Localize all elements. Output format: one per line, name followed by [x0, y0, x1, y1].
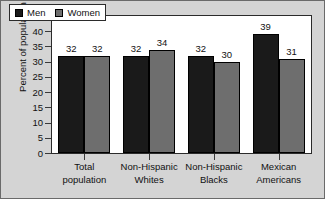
bar-value-label: 32	[123, 43, 149, 55]
x-category-label-line: Non-Hispanic	[182, 161, 247, 174]
x-category-label-line: Americans	[246, 174, 311, 187]
bar-men	[123, 56, 149, 153]
y-tick-label: 40	[23, 26, 43, 37]
y-tick-label: 10	[23, 117, 43, 128]
y-tick-label: 5	[23, 132, 43, 143]
x-category-label-line: Mexican	[246, 161, 311, 174]
x-tick-mark	[214, 154, 215, 160]
bar-women	[279, 59, 305, 153]
legend-label-women: Women	[67, 8, 100, 18]
x-category-label: MexicanAmericans	[246, 161, 311, 186]
x-tick-mark	[149, 154, 150, 160]
bar-men	[188, 56, 214, 153]
x-category-label-line: population	[52, 174, 117, 187]
bar-value-label: 34	[149, 37, 175, 49]
bar-value-label: 32	[58, 43, 84, 55]
y-axis-tick-labels: 454035302520151050	[23, 1, 43, 199]
x-category-label: Non-HispanicBlacks	[182, 161, 247, 186]
y-tick-label: 20	[23, 87, 43, 98]
bar-men	[253, 34, 279, 153]
plot-area: 3232323432303931	[51, 15, 312, 154]
y-tick-label: 15	[23, 102, 43, 113]
x-category-label-line: Whites	[117, 174, 182, 187]
x-category-label: Totalpopulation	[52, 161, 117, 186]
y-tick-label: 0	[23, 148, 43, 159]
x-category-label-line: Blacks	[182, 174, 247, 187]
x-axis-category-labels: TotalpopulationNon-HispanicWhitesNon-His…	[51, 161, 312, 195]
bar-value-label: 39	[253, 21, 279, 33]
x-tick-mark	[84, 154, 85, 160]
legend-swatch-women-icon	[55, 9, 63, 17]
x-tick-mark	[279, 154, 280, 160]
x-axis-tick-marks	[51, 154, 312, 160]
legend-swatch-men-icon	[15, 9, 23, 17]
y-tick-label: 30	[23, 56, 43, 67]
legend-label-men: Men	[27, 8, 45, 18]
bar-value-label: 32	[84, 43, 110, 55]
bars-container: 3232323432303931	[52, 16, 311, 153]
legend-item-men: Men	[15, 8, 45, 18]
bar-value-label: 32	[188, 43, 214, 55]
x-category-label-line: Total	[52, 161, 117, 174]
chart-legend: Men Women	[9, 4, 106, 21]
y-tick-label: 35	[23, 41, 43, 52]
bar-women	[84, 56, 110, 153]
legend-item-women: Women	[55, 8, 100, 18]
bar-men	[58, 56, 84, 153]
bar-value-label: 31	[279, 46, 305, 58]
bar-value-label: 30	[214, 49, 240, 61]
y-tick-label: 25	[23, 71, 43, 82]
x-category-label-line: Non-Hispanic	[117, 161, 182, 174]
bar-women	[149, 50, 175, 154]
bar-women	[214, 62, 240, 153]
x-category-label: Non-HispanicWhites	[117, 161, 182, 186]
bar-chart-figure: Percent of population 454035302520151050…	[0, 0, 325, 199]
